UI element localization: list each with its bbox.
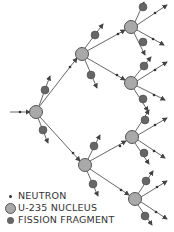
fission-fragment (141, 116, 149, 124)
fission-fragment (90, 142, 98, 150)
nucleus-icon (5, 203, 16, 214)
neutron-dot (154, 12, 157, 15)
legend-nucleus-label: U-235 NUCLEUS (18, 202, 97, 214)
u235-nucleus-gen3-c (126, 131, 139, 144)
legend-neutron-label: NEUTRON (18, 190, 66, 202)
legend: NEUTRON U-235 NUCLEUS FISSION FRAGMENT (5, 190, 114, 226)
fission-fragment (140, 149, 148, 157)
u235-nucleus-gen3-b (125, 77, 138, 90)
u235-nucleus-gen3-a (125, 21, 138, 34)
fission-fragment (89, 180, 97, 188)
fission-fragment (91, 31, 99, 39)
neutron-dot (152, 38, 155, 41)
neutron-icon (9, 195, 12, 198)
fission-fragment (139, 3, 147, 11)
neutron-dot (116, 74, 119, 77)
legend-fragment: FISSION FRAGMENT (5, 214, 114, 226)
neutron-path (39, 58, 77, 107)
neutron-dot (72, 152, 75, 155)
fission-fragment (139, 95, 147, 103)
fission-fragment (39, 126, 47, 134)
neutron-dot (154, 124, 157, 127)
fission-fragment (139, 38, 147, 46)
neutron-dot (69, 66, 72, 69)
fragment-icon (7, 217, 14, 224)
neutron-dot (120, 189, 123, 192)
fission-fragment (87, 71, 95, 79)
neutron-dot (19, 111, 22, 114)
neutron-dot (156, 186, 159, 189)
neutron-dot (155, 211, 158, 214)
fission-fragment (41, 86, 49, 94)
u235-nucleus-gen3-d (129, 193, 142, 206)
legend-nucleus: U-235 NUCLEUS (5, 202, 114, 214)
fission-fragment (141, 212, 149, 220)
legend-fragment-label: FISSION FRAGMENT (18, 214, 114, 226)
u235-nucleus-gen2-lower (79, 159, 92, 172)
neutron-dot (154, 69, 157, 72)
neutron-dot (153, 150, 156, 153)
legend-neutron: NEUTRON (5, 190, 114, 202)
neutron-dot (119, 145, 122, 148)
fission-fragment (140, 62, 148, 70)
u235-nucleus-gen1 (30, 106, 43, 119)
fission-fragment (142, 177, 150, 185)
neutron-dot (117, 33, 120, 36)
u235-nucleus-gen2-upper (76, 48, 89, 61)
neutron-dot (153, 94, 156, 97)
